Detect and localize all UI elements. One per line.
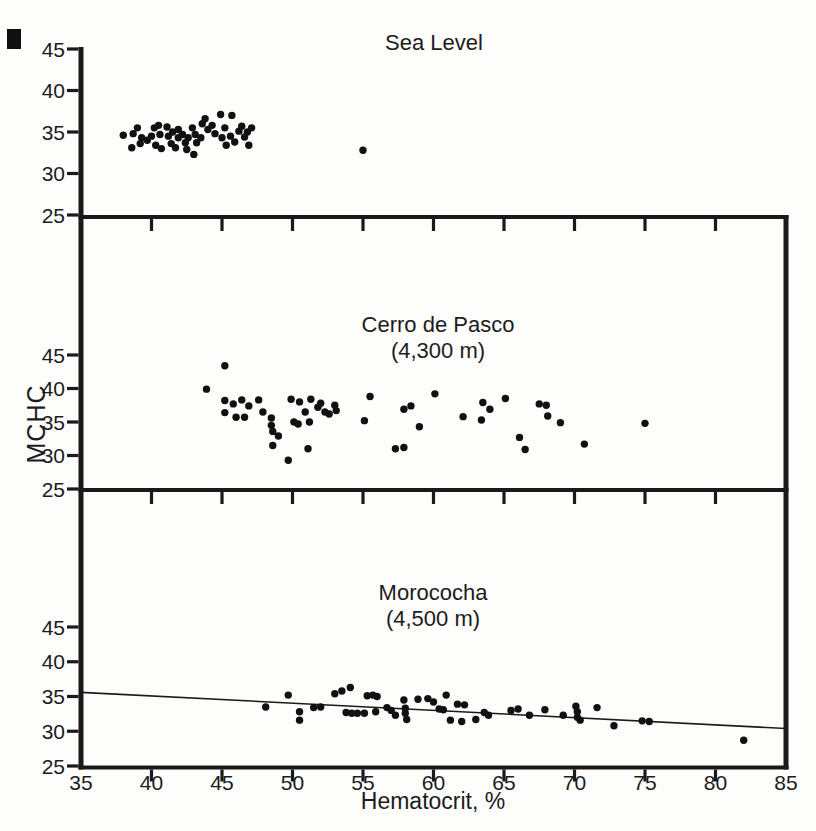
y-tick xyxy=(67,730,79,733)
data-point xyxy=(392,712,399,719)
data-point xyxy=(521,446,528,453)
data-point xyxy=(486,406,493,413)
data-point xyxy=(431,390,438,397)
y-tick-label: 45 xyxy=(42,344,65,367)
data-point xyxy=(514,705,521,712)
x-tick xyxy=(432,492,435,504)
data-point xyxy=(366,393,373,400)
data-point xyxy=(268,414,275,421)
data-point xyxy=(255,396,262,403)
chart-svg: 2530354045253035404525303540453540455055… xyxy=(0,0,816,831)
data-point xyxy=(296,398,303,405)
x-tick-label: 35 xyxy=(69,771,92,794)
data-point xyxy=(610,722,617,729)
data-point xyxy=(148,132,155,139)
x-tick xyxy=(432,219,435,231)
y-tick-label: 30 xyxy=(42,162,65,185)
x-tick-label: 55 xyxy=(351,771,374,794)
data-point xyxy=(183,146,190,153)
data-point xyxy=(228,112,235,119)
x-tick xyxy=(291,219,294,231)
data-point xyxy=(301,408,308,415)
x-tick xyxy=(643,492,646,504)
data-point xyxy=(201,115,208,122)
data-point xyxy=(296,716,303,723)
y-tick-label: 30 xyxy=(42,720,65,743)
data-point xyxy=(354,709,361,716)
y-tick xyxy=(67,130,79,133)
data-point xyxy=(526,712,533,719)
data-point xyxy=(223,142,230,149)
data-point xyxy=(544,412,551,419)
data-point xyxy=(325,410,332,417)
data-point xyxy=(407,402,414,409)
data-point xyxy=(479,399,486,406)
data-point xyxy=(516,434,523,441)
x-axis-line xyxy=(79,766,789,770)
x-tick-label: 80 xyxy=(704,771,727,794)
data-point xyxy=(414,696,421,703)
data-point xyxy=(502,395,509,402)
data-point xyxy=(259,408,266,415)
data-point xyxy=(372,708,379,715)
data-point xyxy=(203,385,210,392)
x-tick-label: 65 xyxy=(492,771,515,794)
data-point xyxy=(221,362,228,369)
x-tick xyxy=(220,492,223,504)
data-point xyxy=(238,396,245,403)
data-point xyxy=(440,706,447,713)
y-tick-label: 45 xyxy=(42,616,65,639)
data-point xyxy=(218,134,225,141)
data-point xyxy=(478,416,485,423)
y-tick-label: 40 xyxy=(42,650,65,673)
data-point xyxy=(430,698,437,705)
x-tick-label: 85 xyxy=(774,771,797,794)
data-point xyxy=(275,432,282,439)
panel-divider-2 xyxy=(79,488,789,492)
x-tick xyxy=(643,219,646,231)
data-point xyxy=(163,123,170,130)
data-point xyxy=(120,132,127,139)
data-point xyxy=(338,687,345,694)
x-tick-label: 70 xyxy=(563,771,586,794)
data-point xyxy=(294,420,301,427)
x-tick xyxy=(150,219,153,231)
data-point xyxy=(230,400,237,407)
data-point xyxy=(646,718,653,725)
y-tick-label: 35 xyxy=(42,411,65,434)
data-point xyxy=(221,409,228,416)
x-tick xyxy=(502,492,505,504)
data-point xyxy=(485,712,492,719)
right-spine xyxy=(784,215,789,770)
data-point xyxy=(304,445,311,452)
x-tick xyxy=(291,492,294,504)
y-tick-label: 40 xyxy=(42,377,65,400)
y-tick-label: 25 xyxy=(42,478,65,501)
data-point xyxy=(269,428,276,435)
data-point xyxy=(231,138,238,145)
y-tick-label: 25 xyxy=(42,755,65,778)
data-point xyxy=(158,145,165,152)
data-point xyxy=(576,716,583,723)
x-tick-label: 60 xyxy=(422,771,445,794)
data-point xyxy=(361,417,368,424)
data-point xyxy=(211,130,218,137)
data-point xyxy=(310,704,317,711)
x-tick-label: 40 xyxy=(140,771,163,794)
y-tick xyxy=(67,487,79,490)
data-point xyxy=(156,131,163,138)
data-point xyxy=(333,407,340,414)
data-point xyxy=(221,124,228,131)
data-point xyxy=(472,716,479,723)
data-point xyxy=(296,708,303,715)
x-tick xyxy=(714,219,717,231)
x-tick xyxy=(502,219,505,231)
panel-divider-1 xyxy=(79,215,789,219)
data-point xyxy=(740,737,747,744)
data-point xyxy=(536,400,543,407)
data-point xyxy=(400,444,407,451)
data-point xyxy=(442,691,449,698)
chart-generated-content: 2530354045253035404525303540453540455055… xyxy=(42,38,798,795)
data-point xyxy=(361,709,368,716)
data-point xyxy=(392,445,399,452)
